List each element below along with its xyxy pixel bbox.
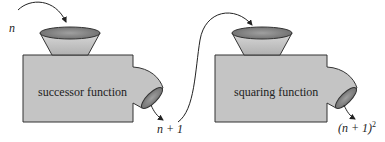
function-composition-diagram: n successor function n + 1 squaring func… [0,0,385,142]
output-label-n-plus-1-squared: (n + 1)2 [338,120,376,136]
input-label-n: n [9,21,15,36]
output-arrow-1 [151,105,163,120]
input-arrow-1 [18,2,66,22]
output-label-n-plus-1: n + 1 [157,122,183,137]
successor-machine [23,27,165,122]
squaring-function-label: squaring function [234,85,318,100]
successor-function-label: successor function [38,85,127,100]
squaring-machine [215,27,359,122]
output-arrow-2 [344,105,355,119]
